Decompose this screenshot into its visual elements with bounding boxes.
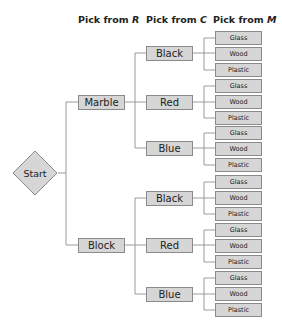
node-m-plastic: Plastic <box>215 158 262 172</box>
node-c-block-blue: Blue <box>146 287 193 302</box>
node-m-wood: Wood <box>215 287 262 301</box>
node-m-glass: Glass <box>215 271 262 285</box>
node-r-marble: Marble <box>78 95 125 110</box>
node-m-glass: Glass <box>215 31 262 45</box>
node-m-glass: Glass <box>215 126 262 140</box>
node-m-glass: Glass <box>215 79 262 93</box>
node-m-glass: Glass <box>215 223 262 237</box>
node-m-plastic: Plastic <box>215 303 262 317</box>
node-c-block-black: Black <box>146 191 193 206</box>
node-m-plastic: Plastic <box>215 207 262 221</box>
node-m-wood: Wood <box>215 47 262 61</box>
node-c-marble-blue: Blue <box>146 141 193 156</box>
node-r-block: Block <box>78 238 125 253</box>
node-m-plastic: Plastic <box>215 111 262 125</box>
node-c-marble-red: Red <box>146 95 193 110</box>
node-m-wood: Wood <box>215 191 262 205</box>
start-node: Start <box>12 150 58 196</box>
node-m-wood: Wood <box>215 95 262 109</box>
node-c-block-red: Red <box>146 238 193 253</box>
node-m-plastic: Plastic <box>215 63 262 77</box>
node-m-plastic: Plastic <box>215 255 262 269</box>
node-m-wood: Wood <box>215 142 262 156</box>
node-m-wood: Wood <box>215 239 262 253</box>
node-c-marble-black: Black <box>146 46 193 61</box>
node-m-glass: Glass <box>215 175 262 189</box>
